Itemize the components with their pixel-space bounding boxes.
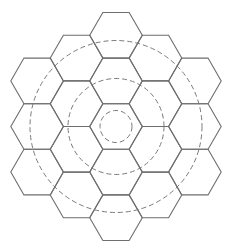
hex-cell bbox=[50, 81, 103, 127]
hex-cell bbox=[129, 35, 182, 81]
dashed-circles bbox=[30, 41, 202, 213]
hex-cells bbox=[11, 13, 221, 241]
inner-ring bbox=[100, 111, 132, 143]
hex-cell bbox=[50, 127, 103, 173]
hex-cell bbox=[129, 172, 182, 218]
hex-cell bbox=[90, 149, 143, 195]
hex-cell bbox=[169, 58, 222, 104]
hex-cell bbox=[90, 13, 143, 59]
hex-cell bbox=[129, 127, 182, 173]
hex-cell bbox=[169, 104, 222, 150]
hex-cell bbox=[11, 104, 64, 150]
hex-cell bbox=[129, 81, 182, 127]
hex-cell bbox=[90, 195, 143, 241]
hex-cell bbox=[50, 172, 103, 218]
hex-grid-diagram bbox=[0, 0, 237, 248]
hex-cell bbox=[90, 58, 143, 104]
hex-cell bbox=[50, 35, 103, 81]
outer-ring bbox=[30, 41, 202, 213]
